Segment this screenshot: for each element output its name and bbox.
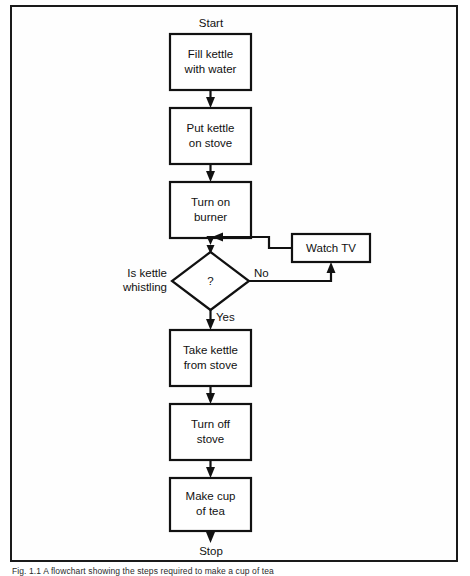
edge-label-yes: Yes	[216, 311, 235, 323]
node-fill-kettle-line1: Fill kettle	[188, 48, 233, 60]
node-turn-on-burner-line1: Turn on	[191, 196, 230, 208]
node-fill-kettle-line2: with water	[184, 63, 237, 75]
node-put-kettle[interactable]: Put kettle on stove	[170, 108, 251, 164]
connector-put-to-turnon	[206, 164, 215, 182]
node-take-kettle-line1: Take kettle	[183, 344, 238, 356]
connector-maketea-to-stop	[206, 531, 215, 543]
node-take-kettle-shape	[170, 330, 251, 386]
node-make-cup-of-tea-line2: of tea	[196, 505, 225, 517]
terminal-stop-label: Stop	[199, 545, 223, 557]
node-put-kettle-line2: on stove	[189, 137, 232, 149]
edge-label-no: No	[254, 267, 269, 279]
connector-turnoff-to-maketea	[206, 460, 215, 478]
arrow-head-icon	[206, 171, 215, 182]
node-turn-on-burner-shape	[170, 182, 251, 238]
node-is-kettle-whistling[interactable]: ? Is kettle whistling	[122, 252, 249, 310]
node-put-kettle-shape	[170, 108, 251, 164]
connector-take-to-turnoff	[206, 386, 215, 404]
node-make-cup-of-tea[interactable]: Make cup of tea	[170, 478, 251, 531]
node-is-kettle-whistling-sidelabel-line1: Is kettle	[127, 267, 167, 279]
node-turn-off-stove-line1: Turn off	[191, 418, 231, 430]
node-turn-off-stove-shape	[170, 404, 251, 460]
figure-caption: Fig. 1.1 A flowchart showing the steps r…	[12, 566, 462, 576]
node-put-kettle-line1: Put kettle	[187, 122, 235, 134]
node-turn-off-stove-line2: stove	[197, 433, 225, 445]
arrow-head-icon	[206, 97, 215, 108]
node-watch-tv[interactable]: Watch TV	[292, 234, 370, 262]
arrow-head-icon	[327, 262, 336, 273]
terminal-start-label: Start	[199, 17, 224, 29]
arrow-head-icon	[206, 319, 215, 330]
arrow-head-icon	[206, 467, 215, 478]
node-is-kettle-whistling-sidelabel-line2: whistling	[122, 281, 167, 293]
node-turn-on-burner[interactable]: Turn on burner	[170, 182, 251, 238]
node-make-cup-of-tea-line1: Make cup	[186, 490, 236, 502]
node-is-kettle-whistling-qmark: ?	[207, 275, 213, 287]
node-fill-kettle[interactable]: Fill kettle with water	[170, 34, 251, 90]
connector-yes-branch: Yes	[206, 310, 235, 330]
arrow-head-icon	[206, 532, 215, 543]
flowchart-figure: Start Fill kettle with water Put kettle …	[0, 0, 470, 576]
arrow-head-icon	[206, 393, 215, 404]
node-watch-tv-label: Watch TV	[306, 242, 356, 254]
node-turn-off-stove[interactable]: Turn off stove	[170, 404, 251, 460]
node-take-kettle-line2: from stove	[184, 359, 238, 371]
connector-fill-to-put	[206, 90, 215, 108]
node-turn-on-burner-line2: burner	[194, 211, 227, 223]
node-take-kettle[interactable]: Take kettle from stove	[170, 330, 251, 386]
flowchart-canvas: Start Fill kettle with water Put kettle …	[0, 0, 470, 576]
connector-no-branch: No	[249, 262, 336, 281]
node-fill-kettle-shape	[170, 34, 251, 90]
